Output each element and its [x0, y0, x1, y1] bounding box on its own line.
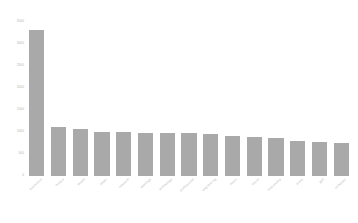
y-axis-tick-label: 2500: [17, 64, 24, 67]
plot-area: economicshistoryhealthpaperresearchmeeti…: [26, 0, 352, 223]
bar: [268, 138, 283, 176]
y-axis-tick-label: 2000: [17, 86, 24, 89]
bar: [160, 133, 175, 176]
bar: [312, 142, 327, 176]
bar: [225, 136, 240, 176]
y-axis-tick-label: 500: [19, 152, 24, 155]
x-axis-tick-label: technology: [159, 178, 173, 191]
bar: [73, 129, 88, 176]
x-axis-tick-label: professional: [179, 178, 195, 193]
y-axis-tick-label: 3000: [17, 42, 24, 45]
x-axis-tick-label: paper: [100, 178, 109, 186]
x-axis-tick-label: engineering: [202, 178, 217, 192]
bar-chart: 0500100015002000250030003500 economicshi…: [0, 0, 358, 223]
y-axis-tick-label: 3500: [17, 20, 24, 23]
x-axis-tick-label: golf: [319, 178, 325, 184]
y-axis: 0500100015002000250030003500: [0, 0, 24, 223]
x-axis-tick-label: piano: [295, 178, 303, 186]
x-axis-tick-label: history: [55, 178, 65, 187]
bar: [247, 137, 262, 176]
x-axis-tick-label: music: [230, 178, 239, 186]
bar: [94, 132, 109, 176]
y-axis-tick-label: 0: [22, 174, 24, 177]
bar: [29, 30, 44, 176]
bar: [116, 132, 131, 176]
bar: [181, 133, 196, 176]
bar: [290, 141, 305, 176]
x-axis-tick-label: economics: [29, 178, 43, 191]
y-axis-tick-label: 1500: [17, 108, 24, 111]
x-axis-tick-label: relationship: [267, 178, 282, 192]
bar: [51, 127, 66, 176]
bar: [138, 133, 153, 176]
x-axis-tick-label: computer: [335, 178, 348, 190]
bar: [334, 143, 349, 176]
bar: [203, 134, 218, 176]
x-axis-tick-label: research: [118, 178, 130, 189]
x-axis-tick-label: meetings: [139, 178, 151, 190]
x-axis-tick-label: health: [77, 178, 86, 187]
y-axis-tick-label: 1000: [17, 130, 24, 133]
x-axis-tick-label: social: [252, 178, 261, 186]
